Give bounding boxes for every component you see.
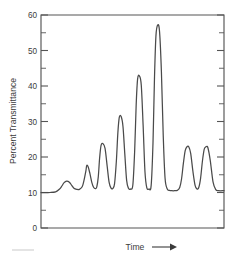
chart-figure: 0 10 20 30 40 50 60 Percent Transmittanc… xyxy=(0,0,238,262)
x-axis-title: Time xyxy=(126,242,177,252)
y-tick-label-60: 60 xyxy=(28,11,38,20)
y-tick-label-50: 50 xyxy=(28,47,38,56)
y-axis-major-ticks xyxy=(41,15,224,228)
y-axis-title: Percent Transmittance xyxy=(8,78,18,164)
y-tick-label-10: 10 xyxy=(28,189,38,198)
transmittance-curve xyxy=(41,25,224,193)
plot-frame xyxy=(41,15,224,228)
y-axis-tick-labels: 0 10 20 30 40 50 60 xyxy=(28,11,38,233)
y-tick-label-40: 40 xyxy=(28,82,38,91)
y-tick-label-0: 0 xyxy=(32,224,37,233)
transmittance-chart: 0 10 20 30 40 50 60 Percent Transmittanc… xyxy=(0,0,238,262)
y-tick-label-30: 30 xyxy=(28,118,38,127)
data-series-group xyxy=(41,25,224,193)
y-axis-title-text: Percent Transmittance xyxy=(8,78,18,164)
y-tick-label-20: 20 xyxy=(28,153,38,162)
x-axis-title-text: Time xyxy=(126,242,145,252)
right-arrow-icon-head xyxy=(170,244,177,251)
